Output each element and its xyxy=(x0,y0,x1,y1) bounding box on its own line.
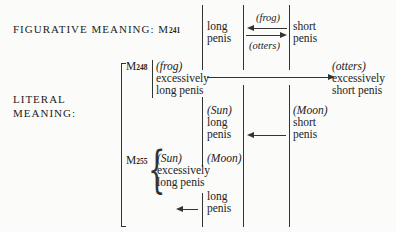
fig-left-line2: penis xyxy=(207,32,231,44)
fig-arrow-bottom-label: (otters) xyxy=(249,40,280,52)
m255-arrow-line xyxy=(182,209,198,210)
fig-arrow-right-line xyxy=(246,35,280,36)
column-line-b-top xyxy=(243,5,244,70)
sun-line1: long xyxy=(207,116,227,128)
m255-sun-line1: excessively xyxy=(157,164,210,176)
moon-agent: (Moon) xyxy=(293,104,328,116)
fig-arrow-left-line xyxy=(252,28,287,29)
m255-target-line2: penis xyxy=(207,202,231,214)
column-line-c-bottom xyxy=(289,85,290,227)
moon-line2: penis xyxy=(293,128,317,140)
m255-target-line1: long xyxy=(207,190,227,202)
myth-m255: M255 xyxy=(126,154,147,168)
literal-meaning-label-2: MEANING: xyxy=(13,107,76,119)
column-line-a-top xyxy=(202,5,203,70)
literal-meaning-label-1: LITERAL xyxy=(13,93,66,105)
m248-right-line2: short penis xyxy=(332,84,382,96)
fig-right-line1: short xyxy=(293,20,316,32)
arrow-left-icon xyxy=(247,132,254,138)
figurative-meaning-label: FIGURATIVE MEANING: M241 xyxy=(13,23,180,37)
fig-left-line1: long xyxy=(207,20,227,32)
m255-sun-agent: (Sun) xyxy=(157,152,182,164)
m248-number: 248 xyxy=(136,63,147,72)
literal-bracket-vertical xyxy=(121,63,122,226)
arrow-left-icon xyxy=(176,206,183,212)
column-line-c-top xyxy=(289,5,290,70)
myth-m241: M241 xyxy=(158,23,180,35)
column-line-a-mid xyxy=(202,97,203,167)
m255-prefix: M xyxy=(126,154,136,166)
column-line-a-low xyxy=(202,193,203,227)
m255-sun-line2: long penis xyxy=(157,176,205,188)
m255-number: 255 xyxy=(136,157,147,166)
fig-right-line2: penis xyxy=(293,32,317,44)
sun-agent: (Sun) xyxy=(207,104,232,116)
m248-separator xyxy=(152,60,153,98)
m248-left-agent: (frog) xyxy=(156,60,182,72)
m255-moon-agent: (Moon) xyxy=(207,152,242,164)
m248-prefix: M xyxy=(126,60,136,72)
m248-arrow-line xyxy=(207,77,330,78)
arrow-right-icon xyxy=(280,32,287,38)
arrow-left-icon xyxy=(247,25,254,31)
moon-to-sun-arrow-line xyxy=(253,135,286,136)
m248-right-line1: excessively xyxy=(332,72,385,84)
m248-left-line1: excessively xyxy=(156,72,209,84)
m248-left-line2: long penis xyxy=(156,84,204,96)
sun-line2: penis xyxy=(207,128,231,140)
literal-bracket-bottom xyxy=(121,226,126,227)
m241-number: 241 xyxy=(169,26,180,35)
m248-right-agent: (otters) xyxy=(332,60,366,72)
moon-line1: short xyxy=(293,116,316,128)
figurative-label-text: FIGURATIVE MEANING: xyxy=(13,23,155,35)
fig-arrow-top-label: (frog) xyxy=(256,12,280,24)
column-line-b-bottom xyxy=(243,85,244,227)
m241-prefix: M xyxy=(158,23,169,35)
myth-m248: M248 xyxy=(126,60,147,74)
